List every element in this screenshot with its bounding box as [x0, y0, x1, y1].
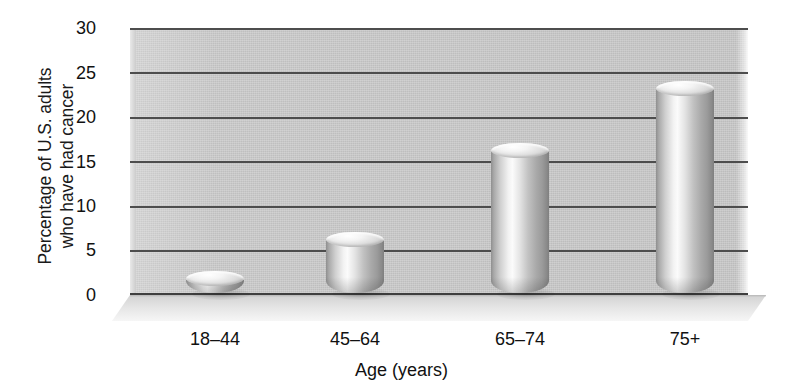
y-tick-label: 20	[52, 108, 96, 126]
bar-45-64	[326, 240, 384, 293]
bar-65-74	[491, 151, 549, 293]
bar-cylinder-top	[186, 271, 244, 286]
bar-cylinder-body	[326, 240, 384, 293]
bar-cylinder-top	[656, 81, 714, 96]
y-tick-label: 5	[52, 241, 96, 259]
bar-18-44	[186, 280, 244, 293]
bar-cylinder-top	[326, 232, 384, 247]
x-tick-label-18-44: 18–44	[145, 329, 285, 350]
bar-cylinder-top	[491, 143, 549, 158]
gridline-30	[130, 28, 748, 30]
plot-area	[130, 28, 748, 295]
x-axis-title: Age (years)	[0, 360, 803, 381]
bar-75-plus	[656, 89, 714, 293]
y-tick-label: 25	[52, 64, 96, 82]
x-tick-label-65-74: 65–74	[450, 329, 590, 350]
bar-cylinder-body	[491, 151, 549, 293]
y-tick-label: 30	[52, 19, 96, 37]
gridline-25	[130, 72, 748, 74]
bar-cylinder-body	[656, 89, 714, 293]
y-tick-label: 0	[52, 286, 96, 304]
y-tick-label: 10	[52, 197, 96, 215]
x-tick-label-75-plus: 75+	[615, 329, 755, 350]
bar-chart-figure: Percentage of U.S. adults who have had c…	[0, 0, 803, 391]
x-tick-label-45-64: 45–64	[285, 329, 425, 350]
y-tick-label: 15	[52, 153, 96, 171]
